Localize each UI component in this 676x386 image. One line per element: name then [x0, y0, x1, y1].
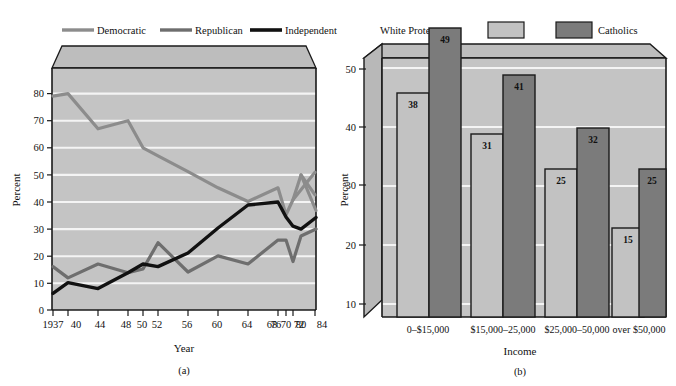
bar-value-label: 15 — [623, 235, 633, 245]
panel-caption-b: (b) — [514, 366, 527, 378]
chart-top-face-b — [364, 44, 666, 58]
bar-catholics-3[interactable] — [639, 169, 666, 317]
figure-container: Democratic Republican Independent — [0, 0, 676, 386]
chart-panel-b: White Protestants Catholics — [340, 0, 676, 386]
bar-value-label: 25 — [556, 176, 566, 186]
category-label-1: $15,000–25,000 — [471, 324, 536, 335]
x-axis-title-a: Year — [174, 342, 195, 354]
chart-top-face — [52, 46, 316, 68]
x-tick-label: 70 — [281, 319, 292, 330]
y-tick-10: 10 — [346, 299, 357, 310]
bar-white-protestants-0[interactable] — [397, 93, 429, 317]
y-tick-50: 50 — [346, 64, 357, 75]
svg-text:10: 10 — [34, 278, 45, 289]
bar-value-label: 38 — [408, 100, 418, 110]
legend-b: White Protestants Catholics — [380, 22, 638, 38]
x-axis-ticks-a — [53, 310, 315, 316]
bar-value-label: 41 — [514, 82, 524, 92]
svg-text:60: 60 — [34, 142, 45, 153]
x-tick-label: 64 — [242, 319, 253, 330]
chart-panel-a: Democratic Republican Independent — [0, 0, 340, 386]
x-tick-label: 60 — [212, 319, 223, 330]
legend-label-democratic: Democratic — [97, 25, 146, 36]
bar-value-label: 32 — [588, 135, 598, 145]
line-chart-svg: Democratic Republican Independent — [0, 0, 340, 386]
bar-catholics-1[interactable] — [503, 75, 535, 317]
svg-text:80: 80 — [34, 88, 45, 99]
category-label-3: over $50,000 — [613, 324, 666, 335]
legend-label-independent: Independent — [285, 25, 337, 36]
x-tick-label: 52 — [152, 319, 163, 330]
y-axis-ticks-a: 0 10 20 30 40 50 60 70 80 — [34, 88, 53, 315]
legend-swatch-catholics — [556, 22, 592, 38]
svg-text:20: 20 — [34, 251, 45, 262]
x-axis-labels-a-3: 80 84 — [296, 319, 328, 330]
legend-a: Democratic Republican Independent — [62, 25, 337, 36]
y-tick-40: 40 — [346, 122, 357, 133]
svg-text:70: 70 — [34, 115, 45, 126]
legend-swatch-white-protestants — [488, 22, 524, 38]
category-label-0: 0–$15,000 — [407, 324, 450, 335]
x-tick-label: 1937 — [43, 319, 64, 330]
chart-left-face-b — [364, 44, 382, 317]
x-axis-labels-a: 1937 40 44 48 50 52 56 60 64 68 70 72 — [43, 319, 305, 330]
x-tick-label: 48 — [121, 319, 132, 330]
bar-value-label: 25 — [647, 176, 657, 186]
x-tick-label: 44 — [95, 319, 106, 330]
legend-label-catholics: Catholics — [598, 25, 638, 36]
bar-white-protestants-1[interactable] — [471, 134, 503, 317]
bar-value-label: 49 — [440, 35, 450, 45]
x-axis-title-b: Income — [504, 345, 537, 357]
bar-catholics-0[interactable] — [429, 28, 461, 317]
svg-text:30: 30 — [34, 224, 45, 235]
bar-catholics-2[interactable] — [577, 128, 609, 317]
y-axis-title-a: Percent — [10, 174, 22, 207]
x-tick-label: 56 — [182, 319, 193, 330]
svg-text:40: 40 — [34, 197, 45, 208]
legend-label-republican: Republican — [195, 25, 244, 36]
bar-value-label: 31 — [482, 141, 492, 151]
svg-text:50: 50 — [34, 170, 45, 181]
panel-caption-a: (a) — [178, 365, 190, 377]
x-tick-label: 50 — [137, 319, 148, 330]
x-tick-label-76-final: 76 — [271, 319, 282, 330]
x-tick-label: 40 — [71, 319, 82, 330]
y-tick-20: 20 — [346, 240, 357, 251]
category-label-2: $25,000–50,000 — [545, 324, 610, 335]
bar-white-protestants-2[interactable] — [545, 169, 577, 317]
y-axis-title-b: Percent — [340, 174, 350, 207]
bar-chart-svg: White Protestants Catholics — [340, 0, 676, 386]
x-tick-label-84: 84 — [317, 319, 328, 330]
svg-text:0: 0 — [39, 305, 44, 316]
x-tick-label-80b: 80 — [296, 319, 307, 330]
